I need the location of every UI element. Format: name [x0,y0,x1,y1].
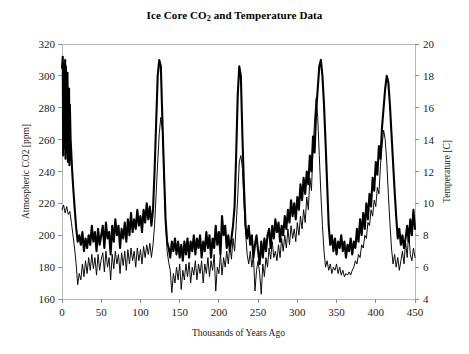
y-tick-label-left: 220 [39,197,56,209]
y-tick-label-right: 20 [423,38,435,50]
x-tick-label: 150 [171,306,188,318]
chart-figure: Ice Core CO2 and Temperature Data 160180… [0,0,469,354]
y-tick-label-left: 160 [39,293,56,305]
x-tick-label: 250 [250,306,267,318]
x-tick-label: 50 [96,306,108,318]
x-tick-label: 200 [211,306,228,318]
y-tick-label-left: 200 [39,229,56,241]
y-tick-label-right: 12 [423,166,434,178]
y-tick-label-right: 6 [423,261,429,273]
y-tick-label-right: 16 [423,102,435,114]
x-tick-label: 300 [289,306,306,318]
y-tick-label-left: 180 [39,261,56,273]
data-series-group [62,57,415,294]
x-axis-title: Thousands of Years Ago [192,328,285,338]
y-tick-label-left: 280 [39,102,56,114]
y-tick-label-right: 8 [423,229,429,241]
y-tick-label-right: 18 [423,70,435,82]
y-tick-label-left: 260 [39,134,56,146]
co2-series-line [62,57,415,264]
y-tick-label-left: 240 [39,166,56,178]
x-tick-label: 350 [328,306,345,318]
y-axis-title-left: Atmospheric CO2 [ppm] [21,124,31,219]
x-tick-label: 0 [59,306,65,318]
x-tick-label: 400 [368,306,385,318]
y-tick-label-right: 4 [423,293,429,305]
x-tick-label: 100 [132,306,149,318]
y-tick-label-right: 10 [423,197,435,209]
x-tick-label: 450 [407,306,424,318]
y-tick-label-left: 300 [39,70,56,82]
y-tick-label-right: 14 [423,134,435,146]
y-tick-label-left: 320 [39,38,56,50]
plot-area: 1601802002202402602803003204681012141618… [0,0,469,354]
temperature-series-line [62,98,415,294]
y-axis-title-right: Temperature [C] [442,140,452,203]
